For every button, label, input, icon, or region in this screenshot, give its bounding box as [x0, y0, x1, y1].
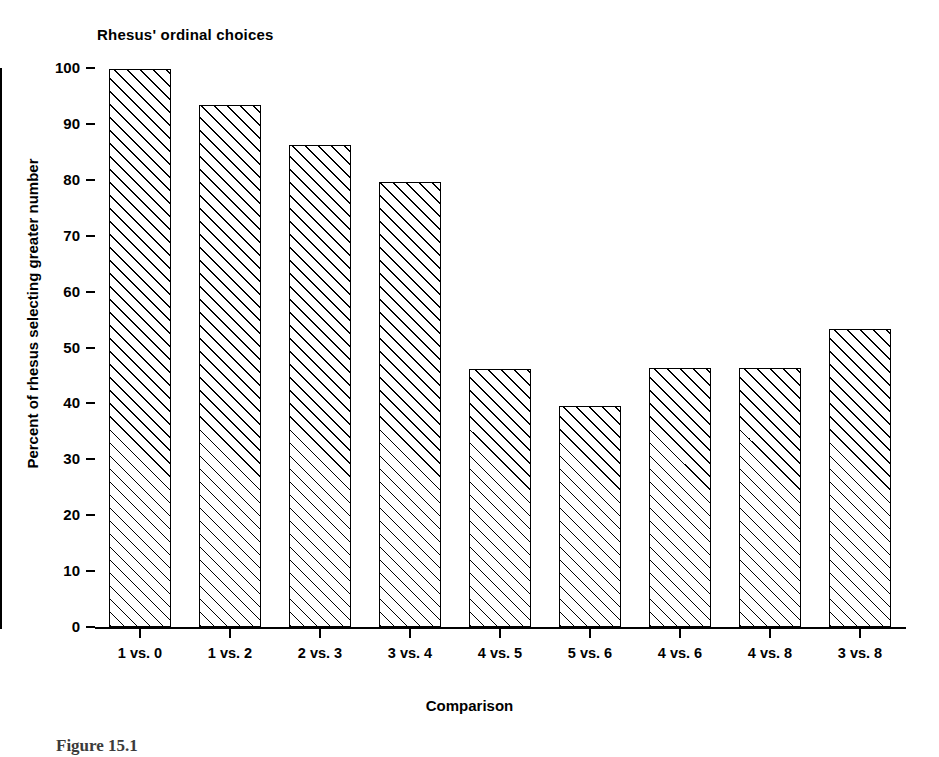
y-axis-tick	[86, 458, 95, 460]
x-axis-tick-label: 5 vs. 6	[545, 645, 635, 661]
bar	[559, 406, 621, 627]
bar	[109, 69, 171, 627]
x-axis-tick	[319, 629, 321, 638]
x-axis-tick-label: 1 vs. 0	[95, 645, 185, 661]
x-axis-tick	[409, 629, 411, 638]
bar	[469, 369, 531, 627]
y-axis-tick	[86, 570, 95, 572]
y-axis-tick-label: 20	[36, 507, 80, 522]
x-axis-tick-label: 4 vs. 8	[725, 645, 815, 661]
chart-title: Rhesus' ordinal choices	[97, 26, 274, 43]
y-axis-tick	[86, 123, 95, 125]
y-axis-tick-label: 30	[36, 451, 80, 466]
x-axis-tick	[589, 629, 591, 638]
y-axis-tick	[86, 67, 95, 69]
x-axis-tick	[769, 629, 771, 638]
y-axis-tick	[86, 514, 95, 516]
bar	[199, 105, 261, 627]
y-axis-tick-label: 40	[36, 395, 80, 410]
figure-caption: Figure 15.1	[56, 736, 138, 756]
y-axis-tick	[86, 179, 95, 181]
bar	[829, 329, 891, 627]
bar	[739, 368, 801, 627]
y-axis-tick-label: 80	[36, 172, 80, 187]
y-axis-tick-label: 90	[36, 116, 80, 131]
y-axis-tick-label: 60	[36, 284, 80, 299]
x-axis-tick-label: 4 vs. 5	[455, 645, 545, 661]
y-axis-tick-label: 0	[36, 619, 80, 634]
x-axis-tick-label: 2 vs. 3	[275, 645, 365, 661]
y-axis-tick-label: 50	[36, 340, 80, 355]
bar	[649, 368, 711, 627]
x-axis-tick-label: 3 vs. 4	[365, 645, 455, 661]
x-axis-tick-label: 1 vs. 2	[185, 645, 275, 661]
x-axis-tick-label: 3 vs. 8	[815, 645, 905, 661]
x-axis-tick	[139, 629, 141, 638]
bar	[289, 145, 351, 627]
y-axis-tick	[86, 402, 95, 404]
y-axis-tick	[86, 235, 95, 237]
figure-bar-chart: Rhesus' ordinal choices 0102030405060708…	[0, 0, 939, 757]
x-axis-tick	[859, 629, 861, 638]
x-axis-tick	[229, 629, 231, 638]
y-axis-tick	[86, 347, 95, 349]
y-axis-title: Percent of rhesus selecting greater numb…	[24, 104, 41, 524]
bar	[379, 182, 441, 627]
y-axis-tick-label: 70	[36, 228, 80, 243]
x-axis-tick	[679, 629, 681, 638]
x-axis-tick	[499, 629, 501, 638]
y-axis-tick-label: 100	[36, 60, 80, 75]
y-axis-tick	[86, 626, 95, 628]
y-axis-tick	[86, 291, 95, 293]
y-axis-spine	[0, 68, 2, 629]
y-axis-tick-label: 10	[36, 563, 80, 578]
x-axis-title: Comparison	[0, 697, 939, 714]
x-axis-tick-label: 4 vs. 6	[635, 645, 725, 661]
